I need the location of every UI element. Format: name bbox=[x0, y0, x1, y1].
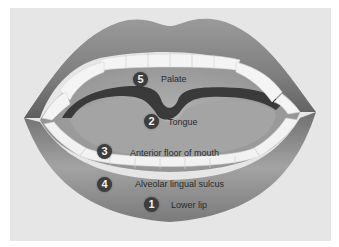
callout-anterior-floor: 3 bbox=[97, 143, 112, 159]
callout-badge: 4 bbox=[97, 177, 112, 192]
label-alveolar-lingual-sulcus: Alveolar lingual sulcus bbox=[135, 178, 224, 190]
callout-badge: 3 bbox=[97, 144, 112, 159]
label-lower-lip: Lower lip bbox=[171, 199, 207, 211]
callout-alveolar-lingual-sulcus: 4 bbox=[97, 176, 112, 192]
callout-tongue: 2 bbox=[144, 113, 159, 129]
label-tongue: Tongue bbox=[168, 116, 198, 128]
callout-badge: 2 bbox=[144, 114, 159, 129]
callout-badge: 5 bbox=[133, 72, 148, 87]
callout-badge: 1 bbox=[144, 197, 159, 212]
label-palate: Palate bbox=[161, 73, 187, 85]
callout-palate: 5 bbox=[133, 71, 148, 87]
label-anterior-floor: Anterior floor of mouth bbox=[130, 147, 219, 159]
callout-lower-lip: 1 bbox=[144, 196, 159, 212]
